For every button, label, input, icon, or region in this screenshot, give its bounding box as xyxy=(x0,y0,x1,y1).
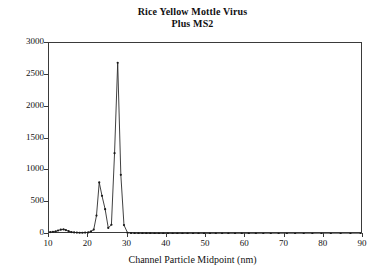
data-point-marker xyxy=(98,181,100,183)
data-point-marker xyxy=(172,232,174,234)
y-tick-mark xyxy=(44,138,48,139)
plot-area xyxy=(48,42,362,233)
data-point-marker xyxy=(145,232,147,234)
data-point-marker xyxy=(209,233,211,234)
data-point-marker xyxy=(197,233,199,234)
data-point-marker xyxy=(286,233,288,234)
chart-title: Rice Yellow Mottle Virus Plus MS2 xyxy=(0,6,385,30)
data-point-marker xyxy=(186,233,188,234)
data-point-marker xyxy=(137,232,139,234)
data-point-marker xyxy=(227,233,229,234)
x-tick-label: 60 xyxy=(229,239,259,248)
data-series-svg xyxy=(49,43,363,234)
y-tick-mark xyxy=(44,42,48,43)
data-point-marker xyxy=(84,232,86,234)
x-tick-mark xyxy=(323,233,324,237)
y-tick-label: 2000 xyxy=(4,101,44,110)
x-axis-label: Channel Particle Midpoint (nm) xyxy=(0,254,385,265)
y-tick-mark xyxy=(44,74,48,75)
data-point-marker xyxy=(95,214,97,216)
x-tick-label: 20 xyxy=(72,239,102,248)
data-point-marker xyxy=(330,233,332,234)
data-point-marker xyxy=(55,230,57,232)
x-tick-mark xyxy=(284,233,285,237)
data-point-marker xyxy=(278,233,280,234)
x-tick-mark xyxy=(362,233,363,237)
x-tick-label: 80 xyxy=(308,239,338,248)
data-point-marker xyxy=(248,233,250,234)
y-tick-label: 2500 xyxy=(4,69,44,78)
data-point-marker xyxy=(120,174,122,176)
data-point-marker xyxy=(255,233,257,234)
x-tick-mark xyxy=(205,233,206,237)
data-point-marker xyxy=(57,229,59,231)
data-point-marker xyxy=(215,233,217,234)
y-tick-mark xyxy=(44,201,48,202)
data-point-marker xyxy=(90,230,92,232)
chart-title-line-2: Plus MS2 xyxy=(0,18,385,30)
data-point-marker xyxy=(73,231,75,233)
data-point-marker xyxy=(162,232,164,234)
x-tick-label: 50 xyxy=(190,239,220,248)
data-point-marker xyxy=(149,232,151,234)
data-point-marker xyxy=(130,232,132,234)
x-tick-label: 30 xyxy=(112,239,142,248)
y-tick-mark xyxy=(44,169,48,170)
x-tick-label: 40 xyxy=(151,239,181,248)
data-point-marker xyxy=(65,229,67,231)
data-point-marker xyxy=(117,62,119,64)
x-tick-mark xyxy=(87,233,88,237)
data-point-marker xyxy=(76,232,78,234)
data-point-marker xyxy=(79,232,81,234)
y-tick-label: 500 xyxy=(4,196,44,205)
data-point-marker xyxy=(181,232,183,234)
data-point-marker xyxy=(60,229,62,231)
data-point-marker xyxy=(241,233,243,234)
x-tick-mark xyxy=(127,233,128,237)
data-point-marker xyxy=(349,233,351,234)
data-point-marker xyxy=(221,233,223,234)
data-point-marker xyxy=(167,232,169,234)
x-tick-label: 90 xyxy=(347,239,377,248)
data-point-marker xyxy=(107,227,109,229)
x-tick-mark xyxy=(166,233,167,237)
data-point-marker xyxy=(104,208,106,210)
y-tick-label: 3000 xyxy=(4,37,44,46)
data-point-marker xyxy=(270,233,272,234)
data-point-marker xyxy=(52,231,54,233)
y-axis-tick-labels: 050010001500200025003000 xyxy=(0,0,44,275)
data-point-marker xyxy=(123,224,125,226)
series-line-particle-count xyxy=(50,63,360,234)
chart-title-line-1: Rice Yellow Mottle Virus xyxy=(0,6,385,18)
data-point-marker xyxy=(62,228,64,230)
data-point-marker xyxy=(311,233,313,234)
data-point-marker xyxy=(81,232,83,234)
data-point-marker xyxy=(49,231,51,233)
data-point-marker xyxy=(158,232,160,234)
y-tick-label: 1500 xyxy=(4,133,44,142)
data-point-marker xyxy=(340,233,342,234)
data-point-marker xyxy=(294,233,296,234)
data-point-marker xyxy=(113,152,115,154)
data-point-marker xyxy=(93,228,95,230)
y-tick-label: 1000 xyxy=(4,164,44,173)
data-point-marker xyxy=(176,232,178,234)
y-tick-label: 0 xyxy=(4,228,44,237)
data-point-marker xyxy=(68,230,70,232)
x-tick-mark xyxy=(244,233,245,237)
series-markers xyxy=(49,62,362,234)
data-point-marker xyxy=(153,232,155,234)
data-point-marker xyxy=(303,233,305,234)
x-tick-label: 10 xyxy=(33,239,63,248)
data-point-marker xyxy=(133,232,135,234)
data-point-marker xyxy=(70,231,72,233)
data-point-marker xyxy=(101,195,103,197)
data-point-marker xyxy=(234,233,236,234)
data-point-marker xyxy=(192,233,194,234)
data-point-marker xyxy=(110,224,112,226)
x-tick-mark xyxy=(48,233,49,237)
data-point-marker xyxy=(141,232,143,234)
chart-figure: Rice Yellow Mottle Virus Plus MS2 050010… xyxy=(0,0,385,275)
data-point-marker xyxy=(262,233,264,234)
x-tick-label: 70 xyxy=(269,239,299,248)
